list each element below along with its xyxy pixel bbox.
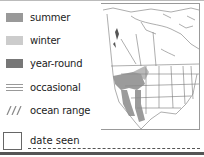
legend-label-ocean-range: ocean range — [30, 105, 90, 116]
winter-swatch — [6, 36, 23, 45]
date-seen-label: date seen — [30, 135, 80, 146]
legend-label-occasional: occasional — [30, 82, 81, 93]
year-round-swatch — [6, 59, 23, 68]
hatch-swatch-icon — [6, 106, 23, 115]
bottom-divider — [0, 152, 204, 155]
legend-item-occasional: occasional — [6, 80, 81, 94]
north-america-map-icon — [101, 4, 199, 129]
legend-item-year-round: year-round — [6, 56, 82, 70]
range-map-card: summer winter year-round occasional ocea… — [0, 0, 204, 157]
legend-label-summer: summer — [30, 12, 70, 23]
summer-swatch — [6, 13, 23, 22]
legend: summer winter year-round occasional ocea… — [2, 6, 102, 127]
legend-item-winter: winter — [6, 33, 60, 47]
date-seen-checkbox[interactable] — [3, 132, 22, 150]
date-seen-input-line[interactable] — [28, 148, 200, 149]
occasional-swatch — [6, 83, 23, 92]
legend-label-winter: winter — [30, 35, 60, 46]
legend-item-ocean-range: ocean range — [6, 103, 90, 117]
range-map — [101, 3, 200, 130]
top-divider — [0, 0, 204, 1]
legend-item-summer: summer — [6, 10, 70, 24]
legend-label-year-round: year-round — [30, 58, 82, 69]
